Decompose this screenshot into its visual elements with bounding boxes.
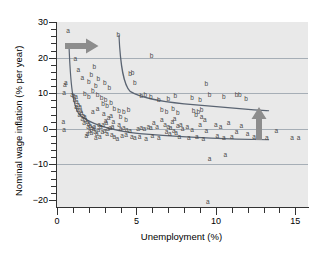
data-point-b: b <box>160 106 164 113</box>
data-point-a: a <box>81 75 85 82</box>
y-tick-major <box>49 129 56 130</box>
x-axis-title: Unemployment (%) <box>22 231 319 242</box>
x-tick-minor <box>168 208 169 213</box>
y-tick-major <box>49 164 56 165</box>
x-tick-minor <box>279 208 280 213</box>
y-tick-minor <box>51 65 56 66</box>
data-point-a: a <box>89 130 93 137</box>
y-tick-minor <box>51 179 56 180</box>
x-tick-minor <box>89 208 90 213</box>
x-axis-line <box>56 207 309 208</box>
data-point-b: b <box>204 81 208 88</box>
data-point-b: b <box>238 92 242 99</box>
y-tick-label: −20 <box>22 195 48 205</box>
data-point-a: a <box>206 198 210 205</box>
y-tick-minor <box>51 100 56 101</box>
data-point-a: a <box>124 132 128 139</box>
data-point-a: a <box>290 135 294 142</box>
data-point-a: a <box>227 120 231 127</box>
x-tick-major <box>136 208 137 215</box>
y-axis-title: Nominal wage inflation (% per year) <box>13 46 24 196</box>
data-point-a: a <box>181 125 185 132</box>
shift-up-arrow <box>251 107 267 140</box>
data-point-b: b <box>198 96 202 103</box>
data-point-a: a <box>216 133 220 140</box>
data-point-b: b <box>157 97 161 104</box>
plot-area: aaaaaaaaaaaaaaaaaaaaaaaaaaaaaaaaaaaaaaaa… <box>57 22 308 207</box>
data-point-b: b <box>165 108 169 115</box>
data-point-a: a <box>96 106 100 113</box>
y-tick-minor <box>51 51 56 52</box>
data-point-a: a <box>235 129 239 136</box>
data-point-a: a <box>150 133 154 140</box>
x-tick-label: 15 <box>283 216 307 226</box>
data-point-a: a <box>117 121 121 128</box>
chart-root: aaaaaaaaaaaaaaaaaaaaaaaaaaaaaaaaaaaaaaaa… <box>0 0 319 261</box>
data-point-b: b <box>108 84 112 91</box>
data-point-a: a <box>198 122 202 129</box>
y-tick-minor <box>51 122 56 123</box>
y-tick-major <box>49 58 56 59</box>
data-point-a: a <box>297 135 301 142</box>
x-tick-minor <box>184 208 185 213</box>
data-point-a: a <box>239 123 243 130</box>
data-point-a: a <box>112 118 116 125</box>
data-point-b: b <box>143 91 147 98</box>
y-tick-label: −10 <box>22 159 48 169</box>
data-point-b: b <box>171 106 175 113</box>
shift-right-arrow <box>65 38 99 54</box>
y-tick-label: 0 <box>22 124 48 134</box>
data-point-a: a <box>146 123 150 130</box>
data-point-b: b <box>244 96 248 103</box>
data-point-a: a <box>92 123 96 130</box>
y-tick-label: 10 <box>22 88 48 98</box>
data-point-b: b <box>150 53 154 60</box>
data-point-a: a <box>63 82 67 89</box>
data-point-a: a <box>185 124 189 131</box>
data-point-a: a <box>208 156 212 163</box>
data-point-b: b <box>87 93 91 100</box>
data-point-b: b <box>112 106 116 113</box>
x-tick-minor <box>105 208 106 213</box>
data-point-a: a <box>102 111 106 118</box>
data-point-b: b <box>131 69 135 76</box>
y-tick-minor <box>51 157 56 158</box>
data-point-b: b <box>103 80 107 87</box>
y-tick-major <box>49 22 56 23</box>
data-point-a: a <box>97 121 101 128</box>
data-point-b: b <box>124 116 128 123</box>
y-tick-minor <box>51 107 56 108</box>
y-tick-minor <box>51 29 56 30</box>
data-point-a: a <box>62 127 66 134</box>
x-tick-major <box>295 208 296 215</box>
data-point-b: b <box>119 114 123 121</box>
data-point-b: b <box>127 107 131 114</box>
data-point-a: a <box>155 124 159 131</box>
data-point-a: a <box>62 119 66 126</box>
y-tick-minor <box>51 43 56 44</box>
x-tick-minor <box>121 208 122 213</box>
data-point-a: a <box>219 123 223 130</box>
data-point-b: b <box>101 101 105 108</box>
x-tick-label: 5 <box>124 216 148 226</box>
data-point-b: b <box>105 103 109 110</box>
data-point-a: a <box>157 134 161 141</box>
data-point-a: a <box>203 116 207 123</box>
y-tick-minor <box>51 193 56 194</box>
data-point-b: b <box>83 91 87 98</box>
data-point-a: a <box>190 127 194 134</box>
x-tick-minor <box>232 208 233 213</box>
data-point-a: a <box>195 134 199 141</box>
x-tick-minor <box>73 208 74 213</box>
data-point-a: a <box>73 56 77 63</box>
data-point-a: a <box>144 135 148 142</box>
y-tick-minor <box>51 79 56 80</box>
data-point-a: a <box>77 67 81 74</box>
x-tick-minor <box>200 208 201 213</box>
y-tick-minor <box>51 86 56 87</box>
x-tick-label: 10 <box>204 216 228 226</box>
data-point-b: b <box>166 96 170 103</box>
data-point-a: a <box>138 134 142 141</box>
data-point-a: a <box>120 133 124 140</box>
y-tick-minor <box>51 72 56 73</box>
